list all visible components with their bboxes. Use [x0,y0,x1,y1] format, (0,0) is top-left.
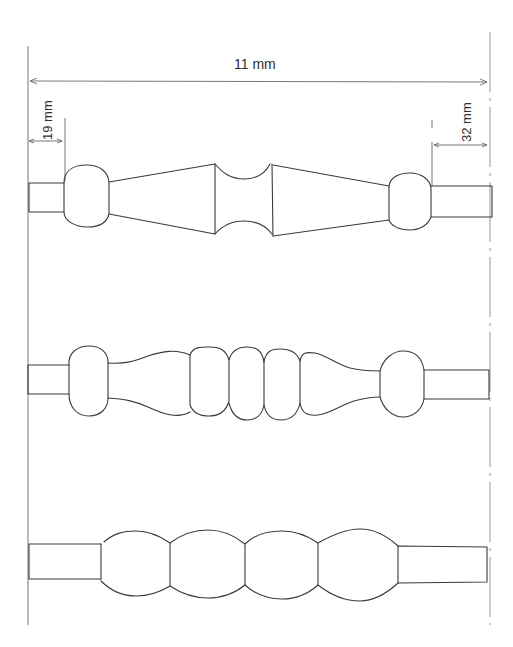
reference-lines [28,32,490,625]
overall-length-label: 11 mm [234,57,276,71]
overall-dimension [30,78,487,85]
bead-3 [29,529,487,601]
right-tube-length-label: 32 mm [460,102,473,142]
left-tube-length-label: 19 mm [41,100,54,140]
bead-profile-drawing [0,0,513,647]
bead-2 [28,346,489,420]
bead-1 [29,164,492,236]
